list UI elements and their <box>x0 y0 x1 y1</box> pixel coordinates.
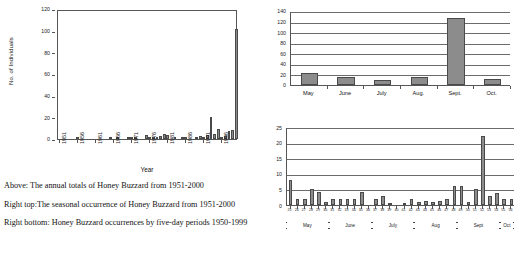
monthly-gridline <box>291 65 510 66</box>
monthly-y-tick-label: 20 <box>268 73 286 78</box>
pentad-y-tick-label: 25 <box>268 126 282 131</box>
annual-bar <box>199 136 202 139</box>
monthly-bar <box>447 18 465 85</box>
annual-bar <box>231 130 234 139</box>
pentad-x-tick-label: 48 <box>450 208 457 212</box>
annual-x-tick-label: 1956 <box>79 132 85 144</box>
monthly-gridline <box>291 23 510 24</box>
annual-y-tick <box>52 10 55 11</box>
annual-bar <box>163 134 166 139</box>
annual-x-tick-label: 1966 <box>115 132 121 144</box>
pentad-gridline <box>287 144 514 145</box>
pentad-x-tick-label: 52 <box>478 208 485 212</box>
pentad-x-tick <box>496 206 497 209</box>
annual-bar <box>213 134 216 139</box>
annual-bar <box>127 137 130 139</box>
annual-y-tick <box>52 32 55 33</box>
monthly-x-tick <box>510 86 511 89</box>
annual-bar <box>181 137 184 139</box>
annual-y-tick-label: 100 <box>20 29 50 34</box>
pentad-bar <box>467 202 471 205</box>
pentad-x-tick-label: 27 <box>300 208 307 212</box>
pentad-y-tick-label: 10 <box>268 172 282 177</box>
annual-x-tick-label: 1971 <box>133 132 139 144</box>
pentad-x-tick <box>432 206 433 209</box>
pentad-x-tick <box>318 206 319 209</box>
monthly-gridline <box>291 75 510 76</box>
pentad-x-tick-label: 31 <box>329 208 336 212</box>
pentad-x-tick <box>468 206 469 209</box>
annual-x-tick <box>167 140 168 143</box>
pentad-bar <box>445 199 449 205</box>
annual-x-tick-label: 1951 <box>61 132 67 144</box>
pentad-bar <box>460 186 464 205</box>
pentad-bar <box>324 202 328 205</box>
pentad-bar <box>453 186 457 205</box>
monthly-bar <box>411 77 429 85</box>
annual-x-tick-label: 1986 <box>187 132 193 144</box>
pentad-x-tick-label: 29 <box>315 208 322 212</box>
pentad-bar <box>417 202 421 205</box>
pentad-x-tick <box>290 206 291 209</box>
monthly-y-tick-label: 100 <box>268 31 286 36</box>
pentad-x-tick <box>404 206 405 209</box>
annual-x-tick <box>149 140 150 143</box>
pentad-occurrence-chart: 0510152025 25262728293031323334353637383… <box>268 122 518 252</box>
pentad-y-tick-label: 0 <box>268 204 282 209</box>
pentad-x-tick-label: 40 <box>393 208 400 212</box>
pentad-bar <box>346 199 350 205</box>
pentad-x-tick-label: 42 <box>407 208 414 212</box>
annual-y-tick-label: 40 <box>20 94 50 99</box>
pentad-bar <box>481 136 485 205</box>
pentad-x-tick <box>418 206 419 209</box>
pentad-bar <box>339 199 343 205</box>
pentad-x-tick <box>510 206 511 209</box>
pentad-bar <box>495 193 499 205</box>
pentad-x-tick-label: 25 <box>286 208 293 212</box>
annual-x-tick <box>203 140 204 143</box>
annual-y-tick-label: 120 <box>20 7 50 12</box>
pentad-bar <box>388 203 392 205</box>
pentad-bar <box>331 199 335 205</box>
pentad-x-tick-label: 49 <box>457 208 464 212</box>
pentad-x-tick-label: 45 <box>429 208 436 212</box>
pentad-band-label: June <box>329 223 372 228</box>
seasonal-occurrence-chart: 020406080100120140 MayJuneJulyAug.Sept.O… <box>268 6 518 108</box>
pentad-x-tick <box>325 206 326 209</box>
pentad-x-tick <box>453 206 454 209</box>
pentad-gridline <box>287 190 514 191</box>
pentad-x-tick-label: 33 <box>343 208 350 212</box>
pentad-x-tick <box>347 206 348 209</box>
pentad-y-tick-label: 5 <box>268 188 282 193</box>
pentad-x-tick <box>375 206 376 209</box>
pentad-band-label: May <box>286 223 329 228</box>
pentad-bar <box>502 199 506 205</box>
annual-x-tick-label: 1996 <box>223 132 229 144</box>
pentad-x-tick <box>368 206 369 209</box>
annual-x-tick <box>131 140 132 143</box>
pentad-band-label: Oct <box>500 223 514 228</box>
annual-x-tick-label: 1976 <box>151 132 157 144</box>
monthly-bar <box>337 77 355 85</box>
pentad-bar <box>474 189 478 205</box>
pentad-x-tick-label: 55 <box>500 208 507 212</box>
pentad-bar <box>510 199 514 205</box>
pentad-x-tick-label: 47 <box>443 208 450 212</box>
pentad-gridline <box>287 159 514 160</box>
pentad-bar <box>310 189 314 205</box>
annual-bar <box>195 137 198 139</box>
monthly-bar <box>484 79 502 85</box>
pentad-x-tick-label: 53 <box>486 208 493 212</box>
annual-x-tick-label: 1961 <box>97 132 103 144</box>
annual-bar-series <box>58 11 236 139</box>
annual-x-tick <box>77 140 78 143</box>
pentad-x-tick <box>297 206 298 209</box>
pentad-x-tick <box>475 206 476 209</box>
annual-x-axis-title: Year <box>57 166 237 173</box>
pentad-y-tick-label: 15 <box>268 157 282 162</box>
annual-bar <box>145 135 148 139</box>
pentad-band-label: Aug <box>414 223 457 228</box>
annual-y-tick-label: 80 <box>20 51 50 56</box>
pentad-bar <box>360 192 364 205</box>
monthly-bar <box>301 73 319 85</box>
